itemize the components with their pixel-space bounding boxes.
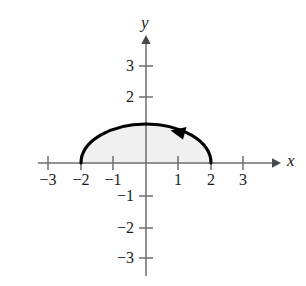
y-axis-label: y	[141, 14, 149, 31]
x-tick-label--2: −2	[71, 172, 91, 188]
y-tick-label-2: 2	[118, 89, 134, 105]
plot-canvas	[0, 0, 306, 286]
y-axis-arrowhead	[141, 35, 150, 44]
y-tick-label--2: −2	[110, 220, 134, 236]
x-tick-label-2: 2	[204, 172, 218, 188]
y-tick-label-3: 3	[118, 58, 134, 74]
x-tick-label--3: −3	[38, 172, 58, 188]
y-tick-label--1: −1	[110, 188, 134, 204]
plot-figure: −3 −2 −1 1 2 3 3 2 −1 −2 −3 y x	[0, 0, 306, 286]
x-axis-arrowhead	[272, 158, 281, 167]
y-tick-label--3: −3	[110, 250, 134, 266]
x-tick-label-1: 1	[171, 172, 185, 188]
x-tick-label--1: −1	[103, 172, 123, 188]
x-tick-label-3: 3	[236, 172, 250, 188]
x-axis-label: x	[287, 152, 295, 169]
